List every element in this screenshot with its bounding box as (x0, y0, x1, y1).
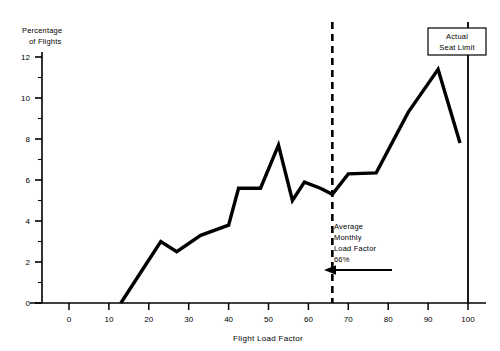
annotation-arrow-left (324, 265, 392, 275)
seat-limit-line-2: Seat Limit (439, 43, 475, 52)
average-load-factor-annotation: Average Monthly Load Factor 66% (324, 222, 392, 275)
annotation-line-3: Load Factor (334, 244, 377, 253)
y-tick-label: 4 (26, 217, 31, 226)
annotation-line-4: 66% (334, 255, 350, 264)
x-tick-label: 90 (424, 315, 433, 324)
y-axis-tick-labels: 0 2 4 6 8 10 12 (21, 53, 30, 308)
y-axis-major-ticks (35, 57, 42, 303)
x-axis-tick-labels: 0 10 20 30 40 50 60 70 80 90 100 (67, 315, 475, 324)
y-tick-label: 8 (26, 135, 31, 144)
x-tick-label: 40 (224, 315, 233, 324)
y-axis-title: Percentage of Flights (22, 26, 62, 46)
y-tick-label: 12 (21, 53, 30, 62)
x-axis-ticks (69, 303, 468, 310)
actual-seat-limit-annotation: Actual Seat Limit (428, 28, 486, 55)
x-tick-label: 0 (67, 315, 72, 324)
y-axis-title-line1: Percentage (22, 26, 62, 35)
y-tick-label: 10 (21, 94, 30, 103)
x-tick-label: 20 (144, 315, 153, 324)
y-tick-label: 2 (26, 258, 31, 267)
x-axis-title: Flight Load Factor (233, 334, 303, 343)
y-tick-label: 0 (26, 299, 31, 308)
x-tick-label: 100 (461, 315, 475, 324)
data-series-line (121, 69, 460, 303)
chart-canvas: 0 2 4 6 8 10 12 Percentage of Flights (0, 0, 500, 351)
annotation-line-1: Average (334, 222, 363, 231)
x-tick-label: 60 (304, 315, 313, 324)
y-axis-title-line2: of Flights (29, 37, 61, 46)
seat-limit-line-1: Actual (446, 32, 468, 41)
x-tick-label: 10 (104, 315, 113, 324)
x-tick-label: 30 (184, 315, 193, 324)
annotation-line-2: Monthly (334, 233, 362, 242)
y-tick-label: 6 (26, 176, 31, 185)
x-tick-label: 70 (344, 315, 353, 324)
x-tick-label: 50 (264, 315, 273, 324)
flight-load-factor-chart: 0 2 4 6 8 10 12 Percentage of Flights (0, 0, 500, 351)
x-tick-label: 80 (384, 315, 393, 324)
